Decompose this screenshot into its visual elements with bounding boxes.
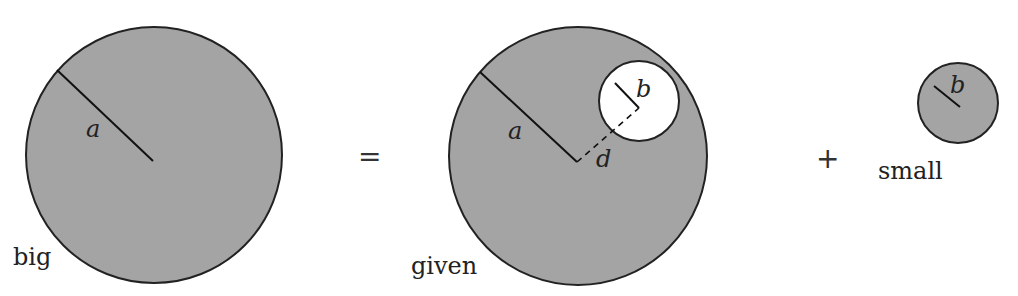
small-radius-label: b: [950, 71, 965, 99]
equals-sign: =: [358, 140, 381, 173]
superposition-diagram: a big = a b d given + b small: [0, 0, 1018, 296]
given-label: given: [411, 252, 477, 280]
given-circle: [449, 27, 707, 285]
big-label: big: [13, 243, 51, 271]
hole-radius-label: b: [636, 75, 651, 103]
big-circle: [26, 27, 282, 283]
small-circle-group: b small: [878, 63, 998, 185]
given-radius-label: a: [508, 117, 522, 145]
big-circle-group: a big: [13, 27, 282, 283]
given-circle-group: a b d given: [411, 27, 707, 285]
big-radius-label: a: [86, 115, 100, 143]
plus-sign: +: [816, 142, 839, 175]
small-label: small: [878, 157, 943, 185]
offset-label: d: [596, 145, 611, 173]
